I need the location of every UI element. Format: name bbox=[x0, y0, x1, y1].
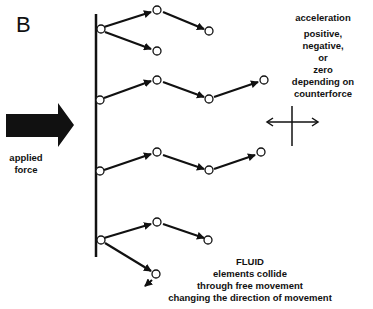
acceleration-cross-icon bbox=[267, 106, 318, 146]
fluid-elements bbox=[96, 6, 268, 278]
applied-force-arrow-icon bbox=[6, 103, 74, 147]
applied-force-label: applied force bbox=[4, 152, 48, 176]
acceleration-label: acceleration positive, negative, or zero… bbox=[268, 12, 373, 100]
trajectory-arrows bbox=[104, 12, 258, 286]
fluid-label: FLUID elements collide through free move… bbox=[160, 256, 340, 304]
